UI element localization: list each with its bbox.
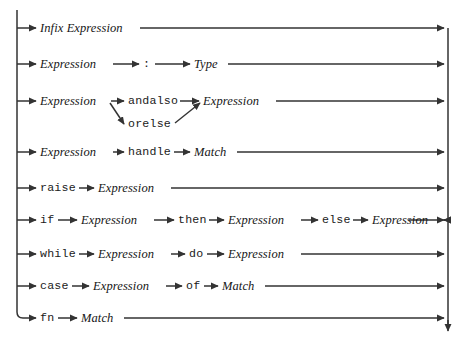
terminal-if: if	[40, 214, 54, 226]
row-orelse-branch-down	[110, 103, 124, 124]
nonterminal-expression-case-scrutinee: Expression	[93, 280, 149, 293]
nonterminal-expression-raise: Expression	[98, 182, 154, 195]
nonterminal-expression-if-cond: Expression	[81, 214, 137, 227]
nonterminal-infix-expression: Infix Expression	[40, 22, 123, 35]
nonterminal-expression-else-branch: Expression	[372, 214, 428, 227]
nonterminal-expression-andalso-right: Expression	[203, 95, 259, 108]
nonterminal-expression-handle: Expression	[40, 146, 96, 159]
terminal-colon: :	[143, 58, 150, 70]
terminal-then: then	[178, 214, 207, 226]
nonterminal-type: Type	[194, 58, 218, 71]
nonterminal-expression-andalso-left: Expression	[40, 95, 96, 108]
railroad-diagram: Infix Expression Expression : Type Expre…	[0, 0, 465, 342]
nonterminal-match-case: Match	[222, 280, 254, 293]
terminal-case: case	[40, 280, 69, 292]
nonterminal-expression-then-branch: Expression	[228, 214, 284, 227]
terminal-while: while	[40, 248, 76, 260]
nonterminal-match-handle: Match	[194, 146, 226, 159]
nonterminal-expression-typed: Expression	[40, 58, 96, 71]
terminal-do: do	[189, 248, 203, 260]
left-rail	[17, 10, 23, 318]
terminal-of: of	[186, 280, 200, 292]
nonterminal-match-fn: Match	[81, 312, 113, 325]
terminal-raise: raise	[40, 182, 76, 194]
terminal-handle: handle	[128, 146, 171, 158]
terminal-andalso: andalso	[128, 95, 178, 107]
terminal-orelse: orelse	[128, 118, 171, 130]
terminal-else: else	[322, 214, 351, 226]
terminal-fn: fn	[40, 312, 54, 324]
row-orelse-join-up	[175, 103, 200, 123]
nonterminal-expression-while-cond: Expression	[98, 248, 154, 261]
nonterminal-expression-while-body: Expression	[228, 248, 284, 261]
